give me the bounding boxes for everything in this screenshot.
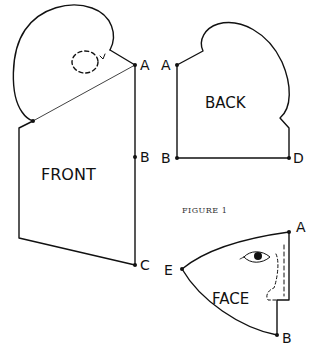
- face-point-e-dot: [180, 267, 184, 271]
- front-point-b-label: B: [140, 149, 150, 165]
- face-nose-dashed-line: [267, 254, 278, 300]
- front-shoulder-dot: [31, 119, 35, 123]
- front-ear-dashed-circle: [72, 51, 98, 73]
- back-point-a-label: A: [161, 57, 171, 73]
- back-outline: [177, 23, 289, 158]
- front-piece-label: FRONT: [41, 165, 96, 184]
- front-piece: [13, 5, 135, 265]
- face-piece-label: FACE: [212, 290, 249, 308]
- face-points: [180, 230, 291, 337]
- face-point-b-dot: [275, 333, 279, 337]
- front-point-a-dot: [133, 63, 137, 67]
- face-point-b-label: B: [282, 330, 292, 346]
- front-neck-line: [110, 50, 135, 65]
- back-point-a-dot: [175, 63, 179, 67]
- front-diagonal-line: [33, 65, 135, 121]
- face-point-a-dot: [287, 230, 291, 234]
- face-point-a-label: A: [296, 219, 306, 235]
- pattern-figure: A B C FRONT A B D BACK FIGURE 1 A B E FA…: [0, 0, 314, 347]
- face-point-e-label: E: [164, 262, 173, 278]
- back-point-d-label: D: [293, 150, 304, 166]
- front-point-c-label: C: [140, 257, 150, 273]
- back-piece-label: BACK: [205, 94, 247, 112]
- back-point-b-dot: [175, 156, 179, 160]
- front-point-b-dot: [133, 155, 137, 159]
- front-ear-arrow: [100, 54, 105, 59]
- face-eye-pupil: [254, 252, 262, 260]
- face-piece: [182, 232, 289, 335]
- back-piece: [177, 23, 289, 158]
- face-outline: [182, 232, 289, 335]
- back-point-d-dot: [287, 156, 291, 160]
- face-eye-lash: [240, 257, 244, 259]
- figure-caption: FIGURE 1: [182, 206, 227, 215]
- back-point-b-label: B: [161, 150, 171, 166]
- front-shoulder-line: [19, 121, 135, 265]
- front-point-a-label: A: [140, 57, 150, 73]
- front-point-c-dot: [133, 263, 137, 267]
